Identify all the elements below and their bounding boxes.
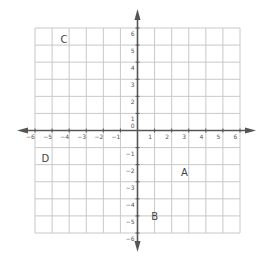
y-tick-label: −5 — [126, 218, 135, 225]
y-tick-label: −4 — [126, 201, 135, 208]
y-tick-label: 5 — [131, 47, 135, 54]
x-tick-label: 4 — [199, 133, 203, 140]
y-tick-label: −2 — [126, 167, 135, 174]
x-tick-label: 2 — [165, 133, 169, 140]
y-tick-label: 3 — [131, 81, 135, 88]
y-tick-label: 4 — [131, 64, 135, 71]
origin-label: 0 — [131, 122, 135, 129]
y-tick-label: 6 — [131, 30, 135, 37]
point-label-d: D — [41, 153, 49, 164]
x-tick-label: 6 — [234, 133, 238, 140]
y-tick-label: −6 — [126, 235, 135, 242]
x-tick-label: 5 — [217, 133, 221, 140]
coordinate-plane: −6−5−4−3−2−11234566543210−1−2−3−4−5−6 AB… — [0, 0, 270, 260]
y-tick-label: −3 — [126, 184, 135, 191]
point-label-b: B — [151, 211, 158, 222]
point-label-c: C — [61, 34, 68, 45]
x-tick-label: −2 — [94, 133, 103, 140]
arrow-down-icon — [135, 241, 141, 252]
x-tick-label: −6 — [26, 133, 35, 140]
y-tick-label: 2 — [131, 98, 135, 105]
arrow-up-icon — [135, 9, 141, 20]
x-tick-label: −3 — [77, 133, 86, 140]
arrow-right-icon — [245, 128, 256, 134]
x-tick-label: 1 — [148, 133, 152, 140]
point-label-a: A — [181, 167, 188, 178]
x-tick-label: −4 — [60, 133, 69, 140]
x-tick-label: 3 — [182, 133, 186, 140]
x-tick-label: −1 — [111, 133, 120, 140]
y-tick-label: −1 — [126, 150, 135, 157]
x-tick-label: −5 — [43, 133, 52, 140]
